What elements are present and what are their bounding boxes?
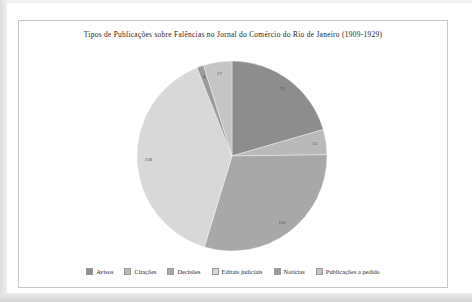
legend-swatch-icon bbox=[212, 268, 219, 275]
page-edge-top bbox=[0, 0, 472, 3]
scanned-page: Tipos de Publicações sobre Falências no … bbox=[0, 0, 472, 302]
legend-item-noticias: Notícias bbox=[274, 268, 305, 275]
legend-swatch-icon bbox=[167, 268, 174, 275]
legend-item-decisoes: Decisões bbox=[167, 268, 200, 275]
legend: AvisosCitaçõesDecisõesEditais judiciaisN… bbox=[19, 268, 447, 275]
data-label-editais-judiciais: 138 bbox=[145, 157, 153, 162]
page-edge-left bbox=[0, 0, 7, 302]
pie-chart: 7215105138417 bbox=[132, 56, 332, 256]
legend-label: Editais judiciais bbox=[222, 268, 263, 275]
page-edge-bottom bbox=[0, 293, 472, 302]
legend-swatch-icon bbox=[316, 268, 323, 275]
legend-label: Publicações a pedido bbox=[326, 268, 380, 275]
legend-label: Citações bbox=[134, 268, 156, 275]
legend-item-editais-judiciais: Editais judiciais bbox=[212, 268, 263, 275]
legend-item-avisos: Avisos bbox=[86, 268, 113, 275]
legend-label: Notícias bbox=[284, 268, 305, 275]
data-label-publicacoes-a-pedido: 17 bbox=[217, 71, 223, 76]
legend-swatch-icon bbox=[124, 268, 131, 275]
data-label-citacoes: 15 bbox=[312, 141, 318, 146]
data-label-avisos: 72 bbox=[280, 86, 286, 91]
legend-item-citacoes: Citações bbox=[124, 268, 156, 275]
chart-frame: Tipos de Publicações sobre Falências no … bbox=[18, 20, 448, 288]
legend-item-publicacoes-a-pedido: Publicações a pedido bbox=[316, 268, 380, 275]
chart-title: Tipos de Publicações sobre Falências no … bbox=[19, 30, 447, 39]
legend-swatch-icon bbox=[86, 268, 93, 275]
data-label-decisoes: 105 bbox=[278, 220, 286, 225]
legend-swatch-icon bbox=[274, 268, 281, 275]
legend-label: Decisões bbox=[177, 268, 200, 275]
legend-label: Avisos bbox=[96, 268, 113, 275]
